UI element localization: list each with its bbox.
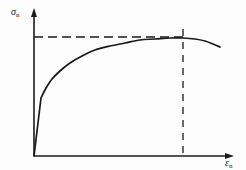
- stress-strain-figure: σn εn: [0, 0, 246, 170]
- y-axis-subscript: n: [16, 11, 20, 19]
- stress-strain-curve: [34, 38, 220, 156]
- x-axis-label: εn: [225, 158, 232, 170]
- stress-strain-plot: [0, 0, 246, 170]
- y-axis-arrowhead: [31, 8, 37, 17]
- y-axis-label: σn: [11, 7, 19, 19]
- x-axis-subscript: n: [229, 162, 233, 170]
